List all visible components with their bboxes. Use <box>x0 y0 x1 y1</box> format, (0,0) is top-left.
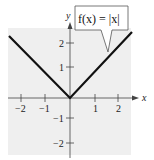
x-axis-arrow-icon <box>132 96 139 101</box>
y-axis-arrow-icon <box>68 22 73 29</box>
callout-label: f(x) = |x| <box>78 12 120 26</box>
y-tick-label: 2 <box>59 38 64 49</box>
x-tick-label: −2 <box>15 103 26 114</box>
x-tick-label: 1 <box>93 103 98 114</box>
y-tick-label: −2 <box>53 138 64 149</box>
absolute-value-graph: x y −2 −1 1 2 2 1 −1 −2 f(x) = |x| <box>0 0 154 160</box>
x-axis-label: x <box>141 92 147 103</box>
y-tick-label: 1 <box>59 62 64 73</box>
y-axis-label: y <box>65 10 71 21</box>
plot-background <box>8 28 131 155</box>
y-tick-label: −1 <box>53 113 64 124</box>
x-tick-label: 2 <box>116 103 121 114</box>
x-tick-label: −1 <box>39 103 50 114</box>
